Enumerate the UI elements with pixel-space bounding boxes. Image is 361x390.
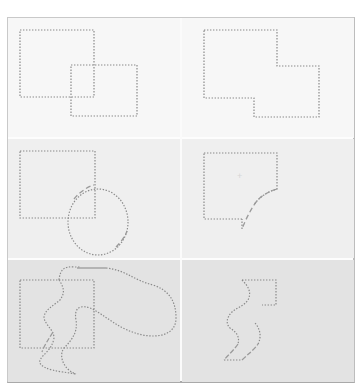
rectangle-selection [20, 280, 94, 348]
panel-rect-rect-result [182, 18, 354, 138]
panel-rect-lasso-result [182, 260, 354, 382]
ellipse-selection [68, 189, 128, 255]
overlapping-rectangles-selection [8, 18, 180, 138]
lasso-dash-segment [42, 332, 53, 352]
subtract-curve-dashes [242, 189, 277, 229]
column-divider [180, 18, 182, 381]
rectangle-selection-a [20, 30, 94, 97]
lasso-path-loop [62, 268, 176, 374]
subtract-selection-left [204, 153, 242, 219]
union-polygon-selection [204, 30, 319, 117]
panel-rect-ellipse-original [8, 139, 180, 258]
ellipse-dash-segment [116, 231, 127, 247]
lasso-path-left [40, 280, 76, 374]
cursor-crosshair-icon: + [237, 171, 242, 181]
panel-rect-rect-original [8, 18, 180, 138]
rect-lasso-selection [8, 260, 180, 382]
panel-rect-lasso-original [8, 260, 180, 382]
rect-ellipse-selection [8, 139, 180, 258]
figure-frame: + [7, 17, 355, 383]
rectangle-selection-b [71, 65, 137, 116]
union-selection [182, 18, 354, 138]
subtract-selection: + [182, 139, 354, 258]
lasso-path-top [59, 267, 80, 280]
ellipse-dash-segment [74, 185, 94, 199]
intersect-selection [182, 260, 354, 382]
rectangle-selection [20, 151, 95, 218]
intersect-lasso-edge-left [227, 280, 249, 344]
panel-rect-ellipse-result: + [182, 139, 354, 258]
intersect-dash-left [224, 344, 238, 360]
intersect-dash-right [242, 344, 258, 360]
intersect-lasso-edge-right [254, 322, 260, 344]
